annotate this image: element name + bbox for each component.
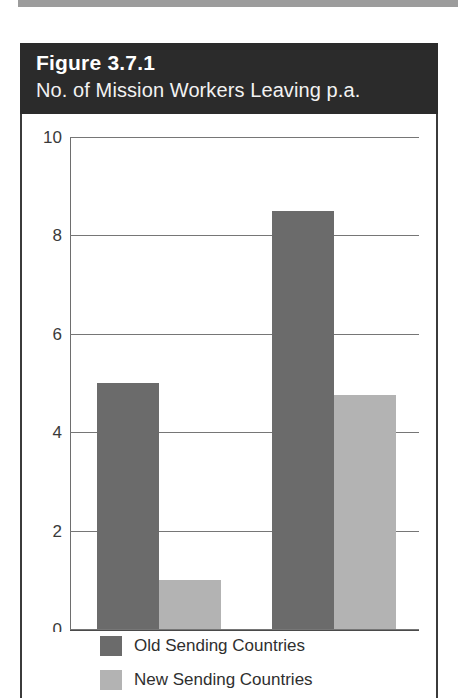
legend-item-old-sending-countries: Old Sending Countries: [100, 636, 305, 656]
bar-low-retention-series-1: [272, 211, 334, 629]
page-top-rule: [18, 0, 458, 7]
legend-label-new: New Sending Countries: [134, 670, 313, 690]
figure-title-banner: Figure 3.7.1 No. of Mission Workers Leav…: [20, 43, 438, 114]
bar-high-retention-series-1: [97, 383, 159, 629]
legend-label-old: Old Sending Countries: [134, 636, 305, 656]
bar-high-retention-series-2: [159, 580, 221, 629]
figure-number: Figure 3.7.1: [36, 50, 438, 76]
figure-card: Figure 3.7.1 No. of Mission Workers Leav…: [20, 43, 438, 698]
y-tick-label-4: 4: [53, 424, 62, 441]
y-tick-label-10: 10: [43, 129, 62, 146]
chart-axes: 0246810: [70, 137, 419, 631]
bar-low-retention-series-2: [334, 395, 396, 629]
plot-panel: 0246810 High retentionLow retention: [20, 114, 438, 632]
y-tick-label-6: 6: [53, 325, 62, 342]
y-tick-label-8: 8: [53, 227, 62, 244]
legend-swatch-icon-old: [100, 636, 122, 656]
bars-layer: [70, 137, 419, 631]
chart-legend: Old Sending Countries New Sending Countr…: [20, 632, 438, 698]
figure-caption: No. of Mission Workers Leaving p.a.: [36, 76, 438, 104]
y-tick-label-2: 2: [53, 522, 62, 539]
legend-item-new-sending-countries: New Sending Countries: [100, 670, 313, 690]
legend-swatch-icon-new: [100, 670, 122, 690]
